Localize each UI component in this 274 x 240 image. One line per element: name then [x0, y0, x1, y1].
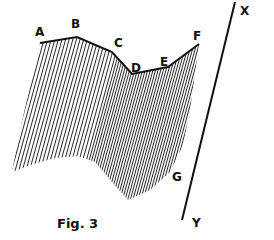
hatch-stroke — [109, 30, 164, 230]
hatch-stroke — [127, 30, 182, 230]
hatch-stroke — [0, 30, 54, 230]
hatch-stroke — [20, 30, 75, 230]
diagram-canvas: ABCDEFGXY Fig. 3 — [0, 0, 274, 240]
hatch-stroke — [166, 30, 221, 230]
hatch-stroke — [0, 30, 43, 230]
hatch-stroke — [88, 30, 143, 230]
hatch-stroke — [122, 30, 177, 230]
hatch-stroke — [10, 30, 65, 230]
hatched-surface — [0, 30, 224, 230]
hatch-stroke — [78, 30, 133, 230]
label-d: D — [131, 61, 141, 75]
hatch-stroke — [0, 30, 36, 230]
hatch-stroke — [161, 30, 216, 230]
hatch-stroke — [125, 30, 180, 230]
hatch-stroke — [164, 30, 219, 230]
hatch-stroke — [106, 30, 161, 230]
hatch-stroke — [96, 30, 151, 230]
hatch-stroke — [46, 30, 101, 230]
figure-3: ABCDEFGXY Fig. 3 — [0, 0, 274, 240]
hatch-stroke — [53, 30, 108, 230]
label-b: B — [71, 17, 80, 31]
label-y: Y — [191, 216, 201, 230]
hatch-stroke — [31, 30, 86, 230]
hatch-stroke — [24, 30, 79, 230]
hatch-stroke — [6, 30, 61, 230]
label-c: C — [114, 36, 123, 50]
hatch-stroke — [13, 30, 68, 230]
hatch-stroke — [42, 30, 97, 230]
hatch-stroke — [49, 30, 104, 230]
label-a: A — [35, 25, 45, 39]
axis-line-xy — [182, 2, 235, 220]
label-x: X — [240, 4, 250, 18]
hatch-stroke — [148, 30, 203, 230]
hatch-stroke — [38, 30, 93, 230]
hatch-stroke — [60, 30, 115, 230]
figure-caption: Fig. 3 — [57, 216, 98, 231]
hatch-stroke — [2, 30, 57, 230]
hatch-stroke — [0, 30, 25, 230]
hatch-stroke — [0, 30, 50, 230]
hatch-stroke — [67, 30, 122, 230]
label-g: G — [172, 170, 182, 184]
hatch-stroke — [35, 30, 90, 230]
label-f: F — [193, 29, 201, 43]
hatch-stroke — [28, 30, 83, 230]
hatch-stroke — [0, 30, 32, 230]
hatch-stroke — [101, 30, 156, 230]
hatch-stroke — [104, 30, 159, 230]
hatch-stroke — [17, 30, 72, 230]
hatch-stroke — [86, 30, 141, 230]
hatch-stroke — [145, 30, 200, 230]
hatch-stroke — [93, 30, 148, 230]
label-e: E — [160, 55, 168, 69]
hatch-stroke — [0, 30, 47, 230]
hatch-stroke — [0, 30, 29, 230]
hatch-stroke — [143, 30, 198, 230]
